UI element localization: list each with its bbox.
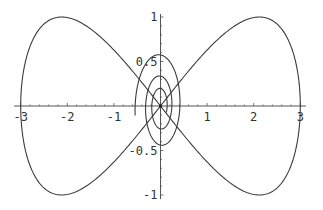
y-tick-label: 1: [150, 10, 157, 24]
x-tick-label: -1: [107, 110, 121, 124]
y-tick-label: -1: [143, 188, 157, 202]
x-tick-label: 1: [203, 110, 210, 124]
y-tick-label: 0.5: [136, 55, 158, 69]
parametric-plot: -3-2-1123 10.5-0.5-1: [0, 0, 323, 210]
x-tick-label: 2: [250, 110, 257, 124]
y-tick-label: -0.5: [129, 144, 158, 158]
x-tick-label: -2: [60, 110, 74, 124]
origin-point: [159, 104, 162, 107]
